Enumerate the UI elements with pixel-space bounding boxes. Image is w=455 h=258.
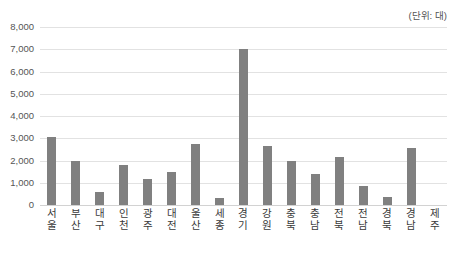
x-axis-label-slot: 광주 xyxy=(136,208,160,256)
x-axis-tick-label: 경남 xyxy=(406,208,417,256)
x-axis-tick-label: 제주 xyxy=(429,208,440,256)
x-axis-label-slot: 강원 xyxy=(255,208,279,256)
bar[interactable] xyxy=(335,157,344,205)
bar[interactable] xyxy=(239,49,248,205)
x-axis-tick-label: 서울 xyxy=(46,208,57,256)
y-axis-tick-label: 1,000 xyxy=(10,178,34,188)
x-axis-label-slot: 부산 xyxy=(64,208,88,256)
y-axis-tick-label: 8,000 xyxy=(10,22,34,32)
x-axis-label-slot: 경남 xyxy=(399,208,423,256)
x-axis-tick-label: 인천 xyxy=(118,208,129,256)
bar-slot xyxy=(255,27,279,205)
bar-slot xyxy=(208,27,232,205)
bar[interactable] xyxy=(263,146,272,205)
x-axis-label-slot: 충남 xyxy=(303,208,327,256)
y-axis-tick-label: 5,000 xyxy=(10,89,34,99)
x-axis-tick-label: 대구 xyxy=(94,208,105,256)
bar-slot xyxy=(375,27,399,205)
x-axis-labels: 서울부산대구인천광주대전울산세종경기강원충북충남전북전남경북경남제주 xyxy=(40,208,447,256)
bar[interactable] xyxy=(167,172,176,205)
y-axis-tick-label: 4,000 xyxy=(10,111,34,121)
x-axis-label-slot: 세종 xyxy=(208,208,232,256)
unit-note-label: (단위: 대) xyxy=(408,8,447,22)
y-axis-tick-label: 6,000 xyxy=(10,67,34,77)
bar-slot xyxy=(64,27,88,205)
bar[interactable] xyxy=(95,192,104,205)
bar-slot xyxy=(232,27,256,205)
x-axis-label-slot: 경기 xyxy=(232,208,256,256)
bars-layer xyxy=(40,27,447,205)
bar[interactable] xyxy=(215,198,224,205)
bar-chart: (단위: 대) 8,0007,0006,0005,0004,0003,0002,… xyxy=(0,0,455,258)
bar-slot xyxy=(303,27,327,205)
bar[interactable] xyxy=(191,144,200,205)
x-axis-label-slot: 인천 xyxy=(112,208,136,256)
x-axis-tick-label: 경기 xyxy=(238,208,249,256)
bar[interactable] xyxy=(359,186,368,205)
x-axis-label-slot: 전북 xyxy=(327,208,351,256)
x-axis-tick-label: 광주 xyxy=(142,208,153,256)
x-axis-tick-label: 부산 xyxy=(70,208,81,256)
bar[interactable] xyxy=(383,197,392,205)
x-axis-tick-label: 충남 xyxy=(310,208,321,256)
y-axis: 8,0007,0006,0005,0004,0003,0002,0001,000… xyxy=(0,27,34,205)
x-axis-label-slot: 제주 xyxy=(423,208,447,256)
x-axis-tick-label: 울산 xyxy=(190,208,201,256)
x-axis-label-slot: 전남 xyxy=(351,208,375,256)
bar[interactable] xyxy=(119,165,128,205)
y-axis-tick-label: 7,000 xyxy=(10,45,34,55)
x-axis-tick-label: 경북 xyxy=(382,208,393,256)
bar-slot xyxy=(160,27,184,205)
x-axis-label-slot: 서울 xyxy=(40,208,64,256)
bar[interactable] xyxy=(47,137,56,205)
bar-slot xyxy=(88,27,112,205)
x-axis-label-slot: 울산 xyxy=(184,208,208,256)
bar-slot xyxy=(351,27,375,205)
y-axis-tick-label: 2,000 xyxy=(10,156,34,166)
x-axis-tick-label: 전남 xyxy=(358,208,369,256)
axis-baseline xyxy=(40,205,447,206)
bar-slot xyxy=(112,27,136,205)
x-axis-tick-label: 강원 xyxy=(262,208,273,256)
bar-slot xyxy=(327,27,351,205)
bar[interactable] xyxy=(311,174,320,205)
bar-slot xyxy=(279,27,303,205)
x-axis-tick-label: 대전 xyxy=(166,208,177,256)
x-axis-label-slot: 대구 xyxy=(88,208,112,256)
bar-slot xyxy=(423,27,447,205)
y-axis-tick-label: 3,000 xyxy=(10,134,34,144)
bar[interactable] xyxy=(71,161,80,205)
bar[interactable] xyxy=(407,148,416,205)
bar-slot xyxy=(136,27,160,205)
y-axis-tick-label: 0 xyxy=(29,200,34,210)
bar[interactable] xyxy=(143,179,152,205)
bar-slot xyxy=(399,27,423,205)
x-axis-label-slot: 경북 xyxy=(375,208,399,256)
x-axis-tick-label: 충북 xyxy=(286,208,297,256)
bar-slot xyxy=(40,27,64,205)
x-axis-tick-label: 세종 xyxy=(214,208,225,256)
x-axis-label-slot: 대전 xyxy=(160,208,184,256)
bar[interactable] xyxy=(287,161,296,205)
x-axis-tick-label: 전북 xyxy=(334,208,345,256)
x-axis-label-slot: 충북 xyxy=(279,208,303,256)
bar-slot xyxy=(184,27,208,205)
